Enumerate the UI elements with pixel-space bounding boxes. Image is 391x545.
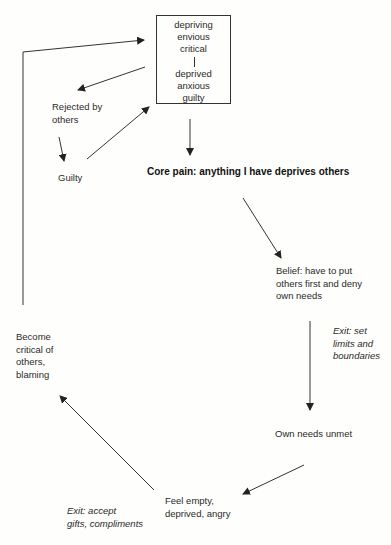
states-box: depriving envious critical deprived anxi… bbox=[156, 15, 231, 104]
state-critical: critical bbox=[157, 43, 230, 55]
node-feel-empty: Feel empty, deprived, angry bbox=[165, 495, 230, 520]
node-rejected: Rejected by others bbox=[52, 101, 112, 126]
node-belief: Belief: have to put others first and den… bbox=[276, 265, 362, 303]
exit-boundaries-line-2: limits and bbox=[333, 338, 380, 351]
become-critical-line-3: others, bbox=[16, 356, 53, 369]
become-critical-line-2: critical of bbox=[16, 344, 53, 357]
arrow-rejected-to-guilty bbox=[59, 137, 64, 161]
arrow-feel-to-critical bbox=[60, 396, 154, 490]
node-needs-unmet: Own needs unmet bbox=[275, 428, 352, 441]
node-exit-boundaries: Exit: set limits and boundaries bbox=[333, 325, 380, 363]
belief-line-2: others first and deny bbox=[276, 278, 362, 291]
state-depriving: depriving bbox=[157, 19, 230, 31]
exit-gifts-line-2: gifts, compliments bbox=[67, 518, 143, 531]
belief-line-1: Belief: have to put bbox=[276, 265, 362, 278]
state-deprived: deprived bbox=[157, 68, 230, 80]
state-separator bbox=[157, 56, 230, 68]
arrow-core-to-belief bbox=[243, 198, 281, 258]
feel-empty-line-2: deprived, angry bbox=[165, 508, 230, 521]
exit-gifts-line-1: Exit: accept bbox=[67, 505, 143, 518]
state-anxious: anxious bbox=[157, 80, 230, 92]
node-exit-gifts: Exit: accept gifts, compliments bbox=[67, 505, 143, 530]
node-guilty: Guilty bbox=[58, 172, 82, 185]
arrow-needs-to-feel bbox=[243, 465, 304, 494]
node-become-critical: Become critical of others, blaming bbox=[16, 331, 53, 381]
arrow-critical-to-box bbox=[23, 40, 144, 305]
belief-line-3: own needs bbox=[276, 290, 362, 303]
exit-boundaries-line-3: boundaries bbox=[333, 350, 380, 363]
state-envious: envious bbox=[157, 31, 230, 43]
become-critical-line-1: Become bbox=[16, 331, 53, 344]
become-critical-line-4: blaming bbox=[16, 369, 53, 382]
state-guilty: guilty bbox=[157, 92, 230, 104]
node-core-pain: Core pain: anything I have deprives othe… bbox=[147, 166, 349, 179]
exit-boundaries-line-1: Exit: set bbox=[333, 325, 380, 338]
arrow-box-to-rejected bbox=[78, 67, 145, 90]
feel-empty-line-1: Feel empty, bbox=[165, 495, 230, 508]
